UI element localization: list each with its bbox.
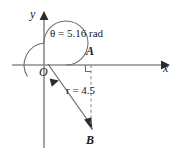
radius-value-label: r = 4.5: [66, 85, 95, 96]
y-axis-arrow-icon: [40, 11, 49, 20]
diagram-canvas: [0, 0, 177, 154]
origin-label: O: [39, 66, 48, 78]
angle-arc-arrow-icon: [50, 79, 59, 87]
x-axis-label: x: [163, 62, 168, 74]
right-angle-marker-icon: [86, 65, 92, 72]
polar-angle-diagram: y x O A B θ = 5.16 rad r = 4.5: [0, 0, 177, 154]
angle-value-label: θ = 5.16 rad: [50, 28, 103, 39]
point-a-label: A: [86, 45, 94, 57]
point-b-label: B: [86, 134, 94, 146]
y-axis-label: y: [30, 8, 35, 20]
